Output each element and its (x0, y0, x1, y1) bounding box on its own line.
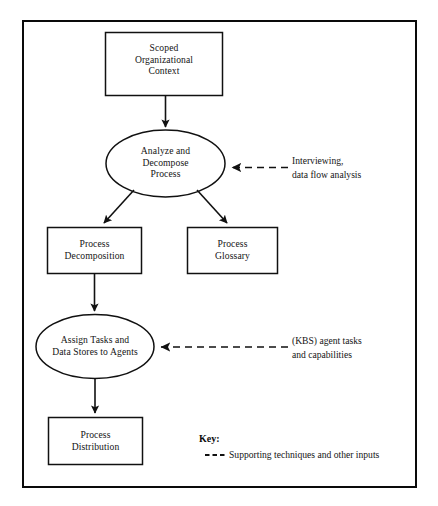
key-title: Key: (199, 433, 220, 444)
node-process-distribution-shape (49, 418, 143, 465)
annotation-interviewing: Interviewing, data flow analysis (292, 154, 361, 183)
node-process-decomposition-shape (48, 228, 142, 274)
edge-analyze-to-decomposition (104, 190, 134, 223)
node-process-glossary-shape (188, 228, 278, 274)
edge-analyze-to-glossary (197, 190, 227, 223)
annotation-interviewing-line1: Interviewing, (292, 154, 361, 168)
node-assign-tasks-shape (36, 315, 154, 379)
diagram-connectors (0, 0, 438, 506)
key-legend-label: Supporting techniques and other inputs (229, 449, 379, 460)
annotation-kbs-line1: (KBS) agent tasks (292, 334, 362, 348)
annotation-kbs: (KBS) agent tasks and capabilities (292, 334, 362, 363)
annotation-interviewing-line2: data flow analysis (292, 168, 361, 182)
node-analyze-decompose-shape (106, 130, 225, 197)
annotation-kbs-line2: and capabilities (292, 348, 362, 362)
node-scoped-context-shape (106, 33, 223, 96)
figure-canvas: Scoped Organizational Context Analyze an… (0, 0, 438, 506)
